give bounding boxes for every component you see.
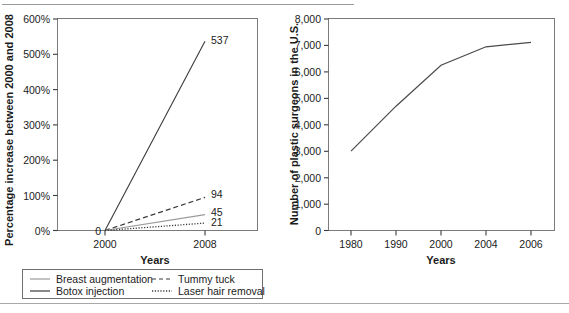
right-x-tick-labels: 1980 1990 2000 2004 2006 — [339, 238, 543, 250]
right-y-tick-label-1000: 1,000 — [295, 198, 321, 210]
right-y-tick-label-6000: 6,000 — [295, 66, 321, 78]
left-chart-legend: Breast augmentation Botox injection Tumm… — [23, 270, 265, 299]
right-y-tick-label-3000: 3,000 — [295, 145, 321, 157]
left-x-tick-label-2008: 2008 — [193, 238, 217, 250]
left-chart-svg: Percentage increase between 2000 and 200… — [0, 0, 286, 303]
right-y-tick-labels: 8,000 7,000 6,000 5,000 4,000 3,000 2,00… — [295, 13, 321, 237]
legend-label-tummy-tuck: Tummy tuck — [178, 273, 236, 285]
left-y-axis-title-group: Percentage increase between 2000 and 200… — [3, 14, 15, 246]
data-label-botox-injection: 537 — [211, 34, 229, 46]
left-data-labels: 0 537 94 45 21 — [95, 34, 229, 237]
right-y-tick-label-4000: 4,000 — [295, 119, 321, 131]
data-label-origin: 0 — [95, 225, 101, 237]
left-x-axis-title: Years — [140, 254, 169, 266]
left-y-tick-labels: 600% 500% 400% 300% 200% 100% 0% — [23, 13, 50, 237]
left-series-lines — [105, 41, 205, 230]
data-label-tummy-tuck: 94 — [211, 188, 223, 200]
left-y-tick-label-100: 100% — [23, 190, 50, 202]
right-y-tick-label-8000: 8,000 — [295, 13, 321, 25]
left-y-tick-label-300: 300% — [23, 119, 50, 131]
right-plot-frame — [329, 19, 555, 231]
left-y-tick-label-200: 200% — [23, 154, 50, 166]
left-y-axis-title: Percentage increase between 2000 and 200… — [3, 14, 15, 246]
right-x-tick-label-2004: 2004 — [474, 238, 498, 250]
right-y-tick-label-2000: 2,000 — [295, 172, 321, 184]
data-label-laser-hair-removal: 21 — [211, 216, 223, 228]
right-x-tick-label-1990: 1990 — [384, 238, 408, 250]
right-x-ticks — [351, 231, 531, 236]
right-y-ticks — [324, 19, 329, 231]
series-line-laser-hair-removal — [105, 223, 205, 230]
right-y-tick-label-0: 0 — [315, 225, 321, 237]
right-x-tick-label-2000: 2000 — [429, 238, 453, 250]
figure-page: Percentage increase between 2000 and 200… — [0, 0, 569, 313]
left-x-ticks — [105, 231, 205, 236]
right-chart-panel: Number of plastic surgeons in the U.S. 8… — [286, 0, 569, 303]
right-x-axis-title: Years — [426, 254, 455, 266]
right-chart-svg: Number of plastic surgeons in the U.S. 8… — [286, 0, 569, 303]
left-y-tick-label-400: 400% — [23, 84, 50, 96]
right-y-tick-label-7000: 7,000 — [295, 39, 321, 51]
bottom-divider-rule — [0, 303, 569, 304]
left-x-tick-labels: 2000 2008 — [93, 238, 217, 250]
left-y-tick-label-600: 600% — [23, 13, 50, 25]
right-x-tick-label-1980: 1980 — [339, 238, 363, 250]
left-y-ticks — [53, 19, 58, 231]
legend-label-laser-hair-removal: Laser hair removal — [178, 285, 265, 297]
left-x-tick-label-2000: 2000 — [93, 238, 117, 250]
right-y-tick-label-5000: 5,000 — [295, 92, 321, 104]
right-x-tick-label-2006: 2006 — [519, 238, 543, 250]
left-y-tick-label-500: 500% — [23, 48, 50, 60]
series-line-breast-augmentation — [105, 215, 205, 231]
left-y-tick-label-0: 0% — [35, 225, 50, 237]
left-chart-panel: Percentage increase between 2000 and 200… — [0, 0, 286, 303]
left-plot-frame — [58, 19, 258, 231]
series-line-plastic-surgeons-visible — [351, 42, 531, 151]
legend-label-botox-injection: Botox injection — [56, 285, 124, 297]
legend-label-breast-augmentation: Breast augmentation — [56, 273, 153, 285]
